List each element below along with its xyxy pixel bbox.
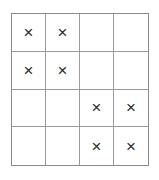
- grid-cell-r2c2[interactable]: ×: [46, 52, 80, 90]
- grid-cell-r1c2[interactable]: ×: [46, 14, 80, 52]
- x-mark-icon: ×: [58, 61, 68, 78]
- x-mark-icon: ×: [126, 99, 136, 116]
- x-mark-icon: ×: [92, 99, 102, 116]
- grid-cell-r4c2[interactable]: [46, 127, 80, 165]
- grid-cell-r2c1[interactable]: ×: [12, 52, 46, 90]
- grid-cell-r4c1[interactable]: [12, 127, 46, 165]
- grid-cell-r4c4[interactable]: ×: [114, 127, 148, 165]
- grid-cell-r1c4[interactable]: [114, 14, 148, 52]
- grid-cell-r4c3[interactable]: ×: [80, 127, 114, 165]
- grid-cell-r1c3[interactable]: [80, 14, 114, 52]
- grid-cell-r3c3[interactable]: ×: [80, 90, 114, 128]
- grid-figure: × × × × × × × ×: [11, 13, 149, 166]
- grid-cell-r3c4[interactable]: ×: [114, 90, 148, 128]
- x-mark-icon: ×: [24, 23, 34, 40]
- grid-cell-r1c1[interactable]: ×: [12, 14, 46, 52]
- grid-cell-r2c3[interactable]: [80, 52, 114, 90]
- grid-cell-r3c2[interactable]: [46, 90, 80, 128]
- x-mark-icon: ×: [126, 137, 136, 154]
- x-mark-icon: ×: [58, 23, 68, 40]
- x-mark-icon: ×: [24, 61, 34, 78]
- x-mark-icon: ×: [92, 137, 102, 154]
- grid-cell-r2c4[interactable]: [114, 52, 148, 90]
- grid-cell-r3c1[interactable]: [12, 90, 46, 128]
